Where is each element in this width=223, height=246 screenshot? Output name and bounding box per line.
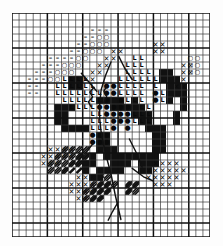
pattern-cell-symbol-dash: –: [61, 55, 68, 62]
pattern-cell-filled: [145, 160, 152, 167]
cell-glyph: L: [83, 90, 87, 96]
cell-glyph: ●: [96, 132, 102, 139]
pattern-cell-symbol-dot: ●: [103, 90, 110, 97]
pattern-cell-filled: [110, 146, 117, 153]
pattern-cell-symbol-dash: –: [47, 69, 54, 76]
cell-glyph: L: [132, 83, 136, 89]
cell-glyph: ✕: [82, 195, 88, 202]
pattern-cell-filled: [138, 167, 145, 174]
cell-glyph: –: [98, 27, 102, 34]
cell-glyph: L: [69, 76, 73, 82]
pattern-cell-symbol-l: L: [103, 118, 110, 125]
pattern-cell-symbol-circle: ○: [187, 55, 194, 62]
cell-glyph: L: [146, 76, 150, 82]
cell-glyph: –: [63, 55, 67, 62]
cell-glyph: ●: [110, 118, 116, 125]
cell-glyph: ✕: [96, 69, 102, 76]
pattern-cell-symbol-cross: ✕: [173, 160, 180, 167]
cell-glyph: ✕: [159, 167, 165, 174]
pattern-cell-symbol-cross: ✕: [159, 48, 166, 55]
cell-glyph: ●: [103, 104, 109, 111]
cell-glyph: L: [132, 76, 136, 82]
pattern-cell-symbol-l: L: [131, 90, 138, 97]
pattern-cell-symbol-cross: ✕: [75, 188, 82, 195]
cell-glyph: ✕: [187, 69, 193, 76]
cell-glyph: ✕: [152, 181, 158, 188]
pattern-cell-symbol-l: L: [89, 97, 96, 104]
pattern-cell-filled: [110, 167, 117, 174]
cell-glyph: –: [56, 55, 60, 62]
pattern-cell-symbol-l: L: [117, 76, 124, 83]
cell-glyph: ●: [117, 111, 123, 118]
pattern-cell-symbol-l: L: [131, 111, 138, 118]
pattern-cell-symbol-l: L: [145, 76, 152, 83]
pattern-cell-filled: [159, 146, 166, 153]
pattern-cell-symbol-l: L: [75, 104, 82, 111]
cell-glyph: L: [97, 118, 101, 124]
pattern-cell-symbol-cross: ✕: [180, 83, 187, 90]
cell-glyph: L: [69, 97, 73, 103]
pattern-cell-symbol-cross: ✕: [96, 69, 103, 76]
pattern-cell-filled: [152, 146, 159, 153]
cell-glyph: ✕: [75, 195, 81, 202]
pattern-cell-symbol-cross: ✕: [152, 167, 159, 174]
cell-glyph: L: [139, 111, 143, 117]
cell-glyph: L: [62, 90, 66, 96]
pattern-cell-filled: [173, 111, 180, 118]
cell-glyph: ✕: [166, 160, 172, 167]
cell-glyph: L: [104, 125, 108, 131]
cell-glyph: –: [91, 34, 95, 41]
pattern-cell-filled: [166, 83, 173, 90]
cell-glyph: L: [132, 62, 136, 68]
cell-glyph: ○: [195, 62, 200, 68]
cell-glyph: ✕: [47, 160, 53, 167]
pattern-cell-symbol-cross: ✕: [117, 48, 124, 55]
pattern-cell-filled: [61, 118, 68, 125]
pattern-cell-filled: [159, 125, 166, 132]
pattern-cell-symbol-l: L: [131, 62, 138, 69]
cell-glyph: ✕: [180, 62, 186, 69]
cell-glyph: ✕: [110, 48, 116, 55]
pattern-cell-symbol-dot: ●: [117, 111, 124, 118]
pattern-cell-filled: [103, 153, 110, 160]
pattern-cell-symbol-l: L: [138, 90, 145, 97]
cell-glyph: ✕: [68, 153, 74, 160]
pattern-cell-symbol-l: L: [145, 69, 152, 76]
pattern-cell-filled: [152, 139, 159, 146]
pattern-cell-symbol-cross: ✕: [75, 195, 82, 202]
cell-glyph: ✕: [180, 83, 186, 90]
cell-glyph: ●: [110, 90, 116, 97]
pattern-cell-symbol-cross: ✕: [54, 160, 61, 167]
cell-glyph: –: [84, 34, 88, 41]
cell-glyph: ●: [117, 104, 123, 111]
pattern-cell-symbol-circle: ○: [103, 34, 110, 41]
cell-glyph: ✕: [68, 146, 74, 153]
pattern-cell-symbol-l: L: [138, 104, 145, 111]
pattern-cell-symbol-l: L: [124, 97, 131, 104]
pattern-cell-symbol-l: L: [54, 90, 61, 97]
pattern-cell-symbol-l: L: [138, 69, 145, 76]
pattern-cell-filled: [103, 167, 110, 174]
cell-glyph: ✕: [75, 188, 81, 195]
cell-glyph: L: [132, 55, 136, 61]
cell-glyph: L: [83, 104, 87, 110]
cell-glyph: L: [90, 125, 94, 131]
pattern-cell-symbol-dash: –: [82, 34, 89, 41]
pattern-cell-symbol-l: L: [159, 97, 166, 104]
pattern-cell-symbol-cross: ✕: [68, 188, 75, 195]
pattern-cell-filled: [159, 132, 166, 139]
pattern-cell-symbol-cross: ✕: [89, 181, 96, 188]
pattern-cell-filled: [103, 146, 110, 153]
cell-glyph: ✕: [187, 62, 193, 69]
cell-glyph: ✕: [54, 160, 60, 167]
cell-glyph: ✕: [145, 167, 151, 174]
cell-glyph: L: [153, 83, 157, 89]
pattern-cell-symbol-circle: ○: [75, 55, 82, 62]
pattern-cell-symbol-dot: ●: [96, 104, 103, 111]
pattern-cell-symbol-dash: –: [33, 69, 40, 76]
pattern-cell-filled: [61, 104, 68, 111]
cell-glyph: ✕: [75, 181, 81, 188]
pattern-cell-symbol-cross: ✕: [166, 181, 173, 188]
pattern-cell-symbol-cross: ✕: [68, 181, 75, 188]
pattern-cell-symbol-dot: ●: [124, 125, 131, 132]
